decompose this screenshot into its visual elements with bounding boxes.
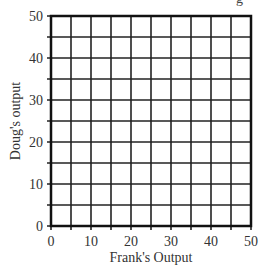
x-tick-label: 10 <box>84 234 98 249</box>
chart: 01020304050 01020304050 Frank's Output D… <box>0 0 268 278</box>
x-tick-label: 0 <box>48 234 55 249</box>
y-tick-label: 10 <box>29 177 43 192</box>
y-tick-label: 50 <box>29 9 43 24</box>
x-tick-label: 20 <box>124 234 138 249</box>
x-axis-ticks: 01020304050 <box>48 234 259 249</box>
x-tick-label: 30 <box>164 234 178 249</box>
y-tick-label: 30 <box>29 93 43 108</box>
y-tick-label: 40 <box>29 51 43 66</box>
y-axis-ticks: 01020304050 <box>29 9 43 234</box>
x-tick-label: 50 <box>244 234 258 249</box>
y-tick-label: 20 <box>29 135 43 150</box>
y-tick-label: 0 <box>36 219 43 234</box>
y-axis-title: Doug's output <box>8 82 23 160</box>
x-tick-label: 40 <box>204 234 218 249</box>
grid-lines <box>47 16 251 230</box>
x-axis-title: Frank's Output <box>109 250 192 265</box>
